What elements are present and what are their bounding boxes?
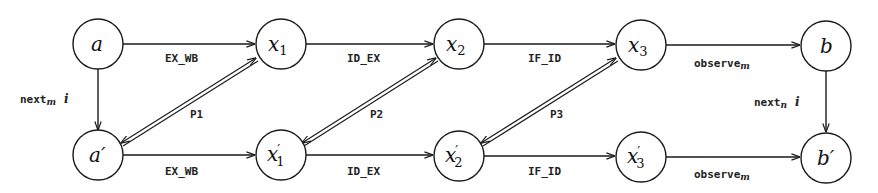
label-bottom-observe: observem xyxy=(694,168,750,182)
label-p3: P3 xyxy=(550,108,563,121)
node-x1: x1 xyxy=(256,19,306,69)
label-top-id-ex: ID_EX xyxy=(347,52,380,65)
node-b: b xyxy=(801,21,851,71)
label-p2: P2 xyxy=(370,108,383,121)
label-p1: P1 xyxy=(190,108,204,121)
correspondence-p1-double-arrow xyxy=(121,58,258,146)
node-x1-prime: x′1 xyxy=(256,130,306,180)
correspondence-p2-double-arrow xyxy=(302,58,438,146)
label-top-observe: observem xyxy=(694,57,750,71)
label-bottom-if-id: IF_ID xyxy=(528,165,561,178)
label-bottom-ex-wb: EX_WB xyxy=(165,165,198,178)
svg-text:a: a xyxy=(91,32,103,56)
node-b-prime: b′ xyxy=(801,133,851,183)
label-top-ex-wb: EX_WB xyxy=(165,52,198,65)
correspondence-p3-double-arrow xyxy=(481,58,618,146)
pipeline-commutation-diagram: a x1 x2 x3 b a′ x′1 x′2 x′3 b′ EX_WB ID_… xyxy=(0,0,878,193)
node-x3: x3 xyxy=(616,20,666,70)
node-x3-prime: x′3 xyxy=(616,132,666,182)
node-x2-prime: x′2 xyxy=(434,131,484,181)
label-right-next: nextni xyxy=(754,95,800,110)
svg-text:b: b xyxy=(820,34,833,58)
label-bottom-id-ex: ID_EX xyxy=(347,165,380,178)
node-x2: x2 xyxy=(434,19,484,69)
node-a: a xyxy=(73,19,123,69)
svg-text:a′: a′ xyxy=(89,143,106,167)
label-left-next: nextmi xyxy=(20,92,69,107)
label-top-if-id: IF_ID xyxy=(528,52,561,65)
svg-text:b′: b′ xyxy=(817,146,835,170)
node-a-prime: a′ xyxy=(73,130,123,180)
